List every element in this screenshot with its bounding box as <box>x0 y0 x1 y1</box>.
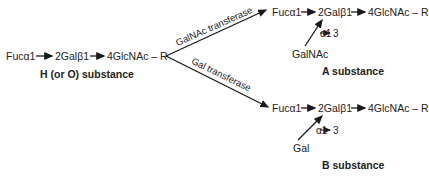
h-fuc: Fucα1 <box>6 51 35 62</box>
b-substance-label: B substance <box>322 160 384 171</box>
b-gal: 2Galβ1 <box>318 103 352 114</box>
b-linkage-alpha: α1 <box>316 126 327 136</box>
a-substance-label: A substance <box>322 66 384 77</box>
upper-branch-arrow <box>166 10 266 56</box>
a-linkage-alpha: α1 <box>320 29 331 39</box>
a-gal: 2Galβ1 <box>318 7 352 18</box>
lower-branch-arrow <box>166 56 268 107</box>
a-linkage-3: 3 <box>333 29 339 39</box>
b-fuc: Fucα1 <box>272 103 301 114</box>
h-gal: 2Galβ1 <box>55 51 89 62</box>
b-glcnac-r: 4GlcNAc – R <box>368 103 429 114</box>
a-glcnac-r: 4GlcNAc – R <box>368 7 429 18</box>
h-substance-label: H (or O) substance <box>40 69 134 80</box>
h-glcnac-r: 4GlcNAc – R <box>107 51 168 62</box>
b-gal-sugar: Gal <box>293 143 309 154</box>
b-linkage-3: 3 <box>333 126 339 136</box>
a-fuc: Fucα1 <box>272 7 301 18</box>
a-galnac: GalNAc <box>292 49 328 60</box>
